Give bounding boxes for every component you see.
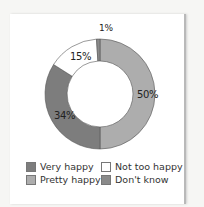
legend-very-happy: Very happy [26, 161, 94, 172]
legend-not-too-happy: Not too happy [101, 161, 183, 172]
swatch-very-happy [26, 162, 36, 172]
label-not-too-happy: 15% [70, 51, 91, 62]
legend-label: Not too happy [115, 161, 183, 172]
legend-label: Pretty happy [40, 174, 101, 185]
legend-pretty-happy: Pretty happy [26, 174, 101, 185]
swatch-dont-know [101, 175, 111, 185]
label-very-happy: 34% [54, 110, 75, 121]
swatch-pretty-happy [26, 175, 36, 185]
swatch-not-too-happy [101, 162, 111, 172]
legend-label: Very happy [40, 161, 94, 172]
slice-very-happy [45, 65, 100, 150]
legend-dont-know: Don't know [101, 174, 169, 185]
label-pretty-happy: 50% [137, 89, 158, 100]
label-dont-know: 1% [99, 23, 113, 33]
legend-label: Don't know [115, 174, 169, 185]
chart-card: 50% 34% 15% 1% Very happy Not too happy … [10, 14, 186, 204]
